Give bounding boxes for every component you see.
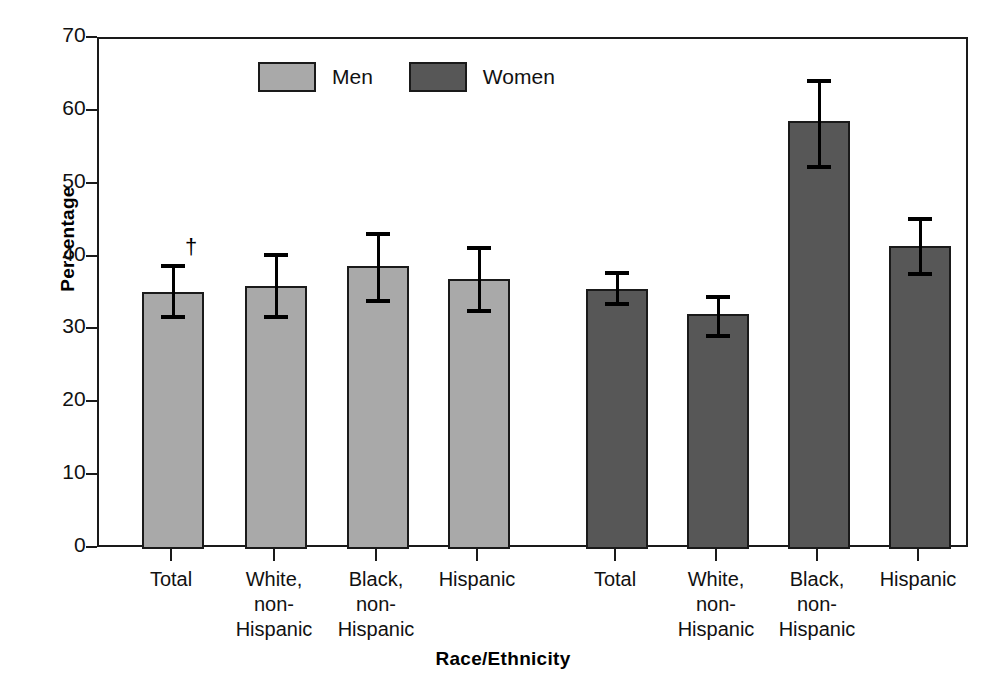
error-bar-cap-top xyxy=(366,232,390,236)
error-bar-cap-top xyxy=(161,264,185,268)
bar-men-2 xyxy=(347,266,409,549)
y-tick-label: 40 xyxy=(40,242,86,266)
legend-label-men: Men xyxy=(332,65,373,89)
dagger-annotation-icon: † xyxy=(185,236,197,258)
y-tick-mark xyxy=(86,36,97,38)
bar-men-3 xyxy=(448,279,510,549)
error-bar-cap-top xyxy=(264,253,288,257)
y-tick-label: 10 xyxy=(40,460,86,484)
error-bar-cap-bottom xyxy=(467,309,491,313)
bar-women-6 xyxy=(788,121,850,549)
error-bar-stem xyxy=(478,248,481,311)
x-tick-mark xyxy=(816,547,818,561)
chart-figure: Percentage 010203040506070 Men Women Tot… xyxy=(0,0,1006,690)
error-bar-stem xyxy=(275,255,278,318)
y-tick-mark xyxy=(86,109,97,111)
chart-legend: Men Women xyxy=(258,62,555,92)
y-tick-mark xyxy=(86,473,97,475)
error-bar-cap-bottom xyxy=(807,165,831,169)
error-bar-cap-top xyxy=(467,246,491,250)
y-tick-label: 0 xyxy=(40,533,86,557)
bar-women-5 xyxy=(687,314,749,549)
error-bar-cap-top xyxy=(706,295,730,299)
error-bar-cap-bottom xyxy=(908,272,932,276)
error-bar-cap-top xyxy=(605,271,629,275)
legend-item-men: Men xyxy=(258,62,373,92)
y-tick-mark xyxy=(86,546,97,548)
error-bar-stem xyxy=(172,266,175,317)
legend-swatch-men xyxy=(258,62,316,92)
x-category-label: Hispanic xyxy=(846,567,990,592)
y-tick-mark xyxy=(86,182,97,184)
legend-swatch-women xyxy=(409,62,467,92)
y-tick-mark xyxy=(86,255,97,257)
x-tick-mark xyxy=(476,547,478,561)
plot-area xyxy=(97,37,968,547)
error-bar-stem xyxy=(919,219,922,274)
y-tick-label: 50 xyxy=(40,169,86,193)
error-bar-cap-top xyxy=(807,79,831,83)
error-bar-cap-top xyxy=(908,217,932,221)
error-bar-cap-bottom xyxy=(366,299,390,303)
legend-item-women: Women xyxy=(409,62,555,92)
bar-women-7 xyxy=(889,246,951,549)
x-tick-mark xyxy=(715,547,717,561)
y-tick-label: 70 xyxy=(40,23,86,47)
bar-women-4 xyxy=(586,289,648,549)
x-axis-title: Race/Ethnicity xyxy=(0,648,1006,670)
bar-men-1 xyxy=(245,286,307,549)
x-tick-mark xyxy=(170,547,172,561)
y-tick-mark xyxy=(86,400,97,402)
x-tick-mark xyxy=(273,547,275,561)
x-category-label: Hispanic xyxy=(405,567,549,592)
x-tick-mark xyxy=(917,547,919,561)
error-bar-cap-bottom xyxy=(706,334,730,338)
error-bar-cap-bottom xyxy=(264,315,288,319)
legend-label-women: Women xyxy=(483,65,555,89)
x-tick-mark xyxy=(614,547,616,561)
error-bar-stem xyxy=(717,297,720,336)
error-bar-cap-bottom xyxy=(161,315,185,319)
error-bar-cap-bottom xyxy=(605,302,629,306)
error-bar-stem xyxy=(818,81,821,167)
error-bar-stem xyxy=(377,234,380,302)
error-bar-stem xyxy=(616,273,619,304)
y-tick-mark xyxy=(86,327,97,329)
bar-men-0 xyxy=(142,292,204,549)
x-tick-mark xyxy=(375,547,377,561)
y-tick-label: 30 xyxy=(40,314,86,338)
y-tick-label: 20 xyxy=(40,387,86,411)
y-tick-label: 60 xyxy=(40,96,86,120)
